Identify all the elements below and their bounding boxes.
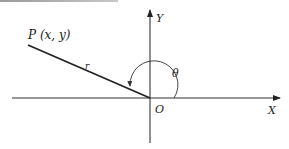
origin-label: O: [155, 103, 164, 116]
x-axis-label: X: [267, 104, 277, 117]
point-label: P (x, y): [27, 28, 71, 42]
radius-line: [28, 45, 150, 98]
radius-label: r: [85, 61, 90, 71]
polar-coordinate-diagram: P (x, y) r θ O X Y: [0, 0, 289, 149]
y-axis-label: Y: [156, 12, 165, 25]
angle-label: θ: [172, 67, 179, 80]
